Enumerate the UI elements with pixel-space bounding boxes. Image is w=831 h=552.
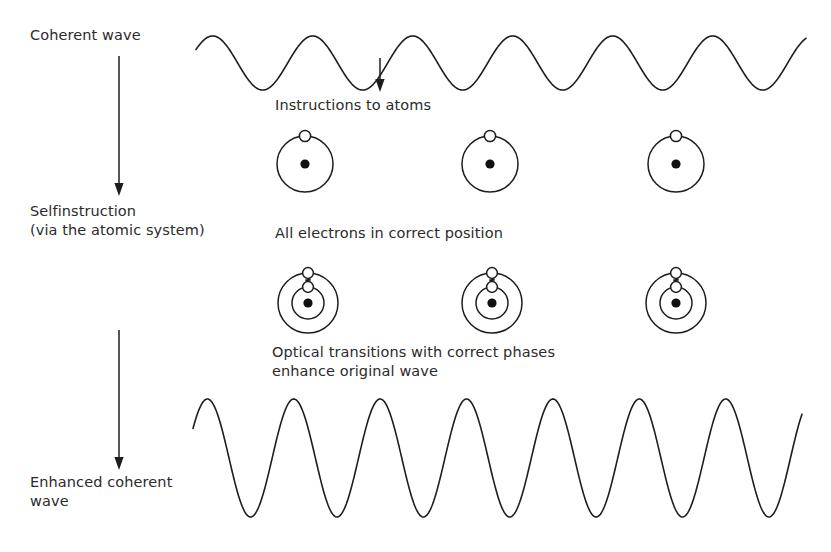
atom-1-electron <box>299 130 310 141</box>
coherent-wave-curve <box>196 36 806 90</box>
atom-6-nucleus <box>671 298 680 307</box>
arrow-wave-to-atoms-head <box>375 79 384 92</box>
atom-6-electron-inner <box>671 282 682 293</box>
atom-6 <box>646 268 706 333</box>
figure-root: Coherent wave Selfinstruction(via the at… <box>0 0 831 552</box>
atom-2-orbit-outer <box>462 136 518 192</box>
atom-1-nucleus <box>300 159 309 168</box>
atom-1-orbit-outer <box>277 136 333 192</box>
enhanced-coherent-wave-curve <box>193 399 802 517</box>
atom-1 <box>277 130 333 192</box>
atom-4 <box>278 268 338 333</box>
stage-label-selfinstruction-line1: Selfinstruction <box>30 203 136 219</box>
atom-2-nucleus <box>485 159 494 168</box>
stage-label-enhanced-line1: Enhanced coherent <box>30 474 172 490</box>
atom-5-orbit-inner <box>476 287 508 319</box>
atom-3-orbit-outer <box>648 136 704 192</box>
arrow-self-to-enhanced <box>114 330 123 470</box>
atom-5-orbit-outer <box>462 273 522 333</box>
caption-all-electrons-in-correct-position: All electrons in correct position <box>275 224 503 243</box>
atom-5-nucleus <box>487 298 496 307</box>
atom-4-orbit-inner <box>292 287 324 319</box>
atom-6-photon-zigzag <box>673 279 678 281</box>
atom-row-transition <box>278 268 706 333</box>
atom-4-electron-outer <box>303 268 314 279</box>
caption-optical-transitions-line1: Optical transitions with correct phases <box>272 344 555 360</box>
flow-arrow-group <box>114 56 384 470</box>
stage-label-selfinstruction: Selfinstruction(via the atomic system) <box>30 202 205 240</box>
atom-row-instructed <box>277 130 704 192</box>
atom-4-electron-inner <box>303 282 314 293</box>
atom-3-electron <box>670 130 681 141</box>
stage-label-enhanced-line2: wave <box>30 493 69 509</box>
stage-label-coherent-wave: Coherent wave <box>30 26 141 45</box>
atom-2-electron <box>484 130 495 141</box>
atom-6-orbit-outer <box>646 273 706 333</box>
caption-optical-transitions-line2: enhance original wave <box>272 363 438 379</box>
atom-6-electron-outer <box>671 268 682 279</box>
arrow-wave-to-atoms <box>375 58 384 92</box>
atom-3 <box>648 130 704 192</box>
atom-5-photon-zigzag <box>489 279 494 281</box>
atom-4-orbit-outer <box>278 273 338 333</box>
atom-5-electron-outer <box>487 268 498 279</box>
caption-optical-transitions: Optical transitions with correct phasese… <box>272 343 555 381</box>
arrow-coherent-to-self <box>114 56 123 196</box>
atom-5-electron-inner <box>487 282 498 293</box>
atom-4-photon-zigzag <box>305 279 310 281</box>
atom-2 <box>462 130 518 192</box>
atom-5 <box>462 268 522 333</box>
caption-instructions-to-atoms: Instructions to atoms <box>275 96 431 115</box>
atom-4-nucleus <box>303 298 312 307</box>
arrow-self-to-enhanced-head <box>114 457 123 470</box>
diagram-vector-layer <box>0 0 831 552</box>
arrow-coherent-to-self-head <box>114 183 123 196</box>
stage-label-enhanced-coherent-wave: Enhanced coherentwave <box>30 473 172 511</box>
atom-6-orbit-inner <box>660 287 692 319</box>
atom-3-nucleus <box>671 159 680 168</box>
stage-label-selfinstruction-line2: (via the atomic system) <box>30 222 205 238</box>
